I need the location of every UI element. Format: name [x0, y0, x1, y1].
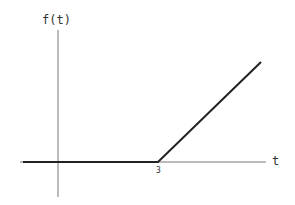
x-axis-label: t [272, 154, 279, 168]
ramp-function-plot: f(t) t 3 [0, 0, 295, 205]
y-axis-label: f(t) [42, 13, 71, 27]
function-curve [23, 62, 261, 162]
x-tick-3: 3 [156, 166, 161, 175]
